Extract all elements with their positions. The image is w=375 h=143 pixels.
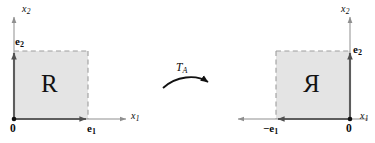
basis-label-e2-right: e2 <box>353 44 362 57</box>
origin-dot-right <box>348 117 353 122</box>
y-axis-label-right: x2 <box>341 4 350 15</box>
x-axis-label-right: x1 <box>360 111 369 122</box>
basis-label-e2-left: e2 <box>15 36 24 49</box>
linear-transformation-figure: x2 x1 e2 e1 0 R TA x2 x1 e2 −e1 0 R <box>0 0 375 143</box>
transformation-arrow-graphic <box>163 77 208 88</box>
origin-label-right: 0 <box>346 123 352 135</box>
x-axis-label-left: x1 <box>131 111 140 122</box>
basis-label-e1-left: e1 <box>87 123 96 136</box>
origin-dot-left <box>12 117 17 122</box>
y-axis-label-left: x2 <box>22 4 31 15</box>
transformation-label: TA <box>176 62 187 75</box>
region-label-right: R <box>303 71 320 96</box>
domain-panel-graphics <box>12 17 126 121</box>
origin-label-left: 0 <box>10 123 16 135</box>
basis-label-neg-e1-right: −e1 <box>263 123 278 136</box>
region-label-left: R <box>41 71 58 96</box>
